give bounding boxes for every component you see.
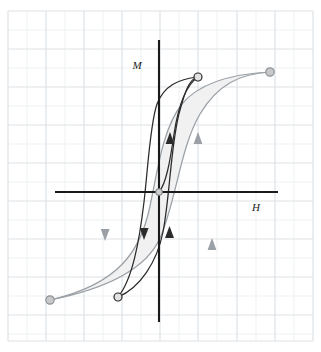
arrow-outer-ascending-upper <box>194 132 203 144</box>
h-axis-label: H <box>251 201 261 213</box>
marker-saturation-negative-inner <box>114 293 122 301</box>
marker-origin-point <box>156 189 162 195</box>
arrow-inner-ascending-lower <box>165 226 174 238</box>
marker-saturation-positive-outer <box>266 68 274 76</box>
arrow-outer-ascending-lower <box>208 238 217 250</box>
marker-saturation-positive-inner <box>194 73 202 81</box>
hysteresis-svg: M H <box>0 0 321 352</box>
hysteresis-figure: M H <box>0 0 321 352</box>
m-axis-label: M <box>131 59 142 71</box>
marker-saturation-negative-outer <box>46 296 54 304</box>
